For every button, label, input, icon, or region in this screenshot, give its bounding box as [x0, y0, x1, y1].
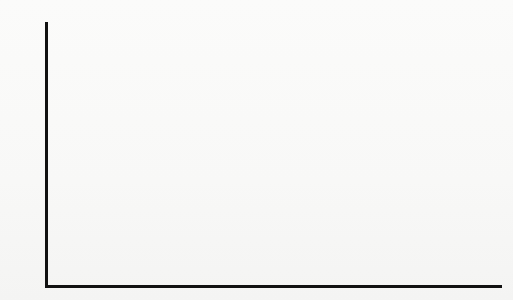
x-axis-tick-labels	[48, 290, 502, 300]
plot-area	[48, 22, 502, 285]
chart-legend	[62, 7, 322, 51]
legend-item-expenditures	[62, 29, 322, 48]
y-axis-tick-labels	[0, 0, 43, 300]
legend-swatch-orange	[62, 31, 77, 46]
legend-item-savings	[62, 7, 322, 26]
x-axis-line	[45, 285, 502, 288]
stacked-bar-chart	[0, 0, 513, 300]
legend-swatch-blue	[62, 9, 77, 24]
chart-page	[0, 0, 513, 300]
